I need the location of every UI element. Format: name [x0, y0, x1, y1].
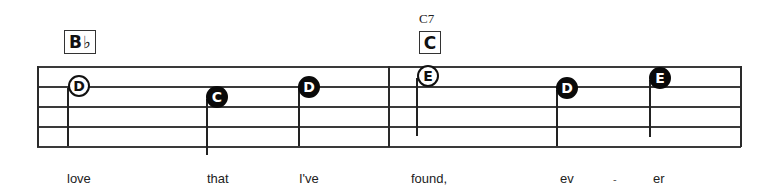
chord-box-b-flat: B♭	[64, 30, 96, 54]
lyric-hyphen: -	[613, 173, 617, 185]
note-c-filled: C	[206, 86, 228, 108]
note-stem	[649, 80, 651, 137]
lyric-word: love	[67, 171, 91, 186]
chord-root: B	[69, 32, 82, 52]
note-stem	[206, 99, 208, 155]
chord-box-c: C	[419, 31, 441, 54]
note-d-filled: D	[298, 76, 320, 98]
note-stem	[556, 90, 558, 146]
lyric-word: ev	[560, 171, 574, 186]
chord-root: C	[424, 33, 436, 53]
note-stem	[67, 88, 69, 146]
flat-symbol: ♭	[83, 32, 91, 52]
note-stem	[416, 78, 418, 136]
lyric-word: I've	[299, 171, 319, 186]
note-e-hollow: E	[417, 65, 439, 87]
lyric-word: er	[653, 171, 665, 186]
barline-middle	[388, 66, 390, 147]
lyric-word: found,	[411, 171, 447, 186]
barline-end	[740, 66, 742, 147]
note-e-filled: E	[649, 67, 671, 89]
chord-name-label: C7	[419, 11, 434, 27]
note-d-filled: D	[556, 77, 578, 99]
note-d-hollow: D	[68, 75, 90, 97]
note-stem	[298, 88, 300, 146]
barline-start	[37, 66, 39, 147]
lyric-word: that	[207, 171, 229, 186]
